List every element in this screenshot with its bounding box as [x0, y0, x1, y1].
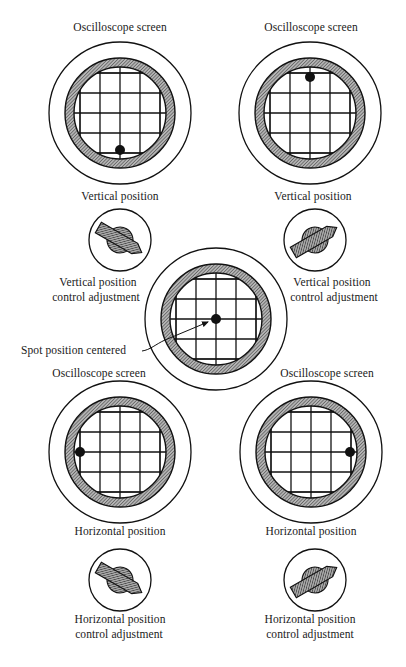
electron-beam-spot	[211, 314, 221, 324]
knob-vertical-right-label-line2: control adjustment	[290, 290, 378, 304]
knob-vertical-left-label-line1: Vertical position	[59, 275, 136, 289]
knob-horizontal-right	[284, 549, 346, 611]
top-right-screen-caption: Vertical position	[274, 189, 351, 203]
top-right-screen-title: Oscilloscope screen	[264, 20, 358, 34]
oscilloscope-screen-center	[145, 248, 287, 390]
oscilloscope-diagram: Oscilloscope screen Oscilloscope screen …	[0, 0, 406, 667]
electron-beam-spot	[75, 447, 85, 457]
knob-horizontal-left-label-line1: Horizontal position	[74, 612, 165, 626]
oscilloscope-screen-top-left	[49, 42, 191, 184]
bottom-left-screen-caption: Horizontal position	[74, 524, 165, 538]
bottom-right-screen-caption: Horizontal position	[265, 524, 356, 538]
diagram-canvas	[0, 0, 406, 667]
electron-beam-spot	[115, 145, 125, 155]
oscilloscope-screen-bottom-right	[240, 381, 382, 523]
knob-vertical-left	[89, 209, 151, 271]
knob-horizontal-right-label-line1: Horizontal position	[264, 612, 355, 626]
top-left-screen-caption: Vertical position	[81, 189, 158, 203]
knob-horizontal-left	[89, 549, 151, 611]
knob-horizontal-left-label-line2: control adjustment	[75, 627, 163, 641]
electron-beam-spot	[345, 447, 355, 457]
bottom-right-screen-title: Oscilloscope screen	[280, 366, 374, 380]
spot-centered-callout: Spot position centered	[21, 343, 126, 357]
top-left-screen-title: Oscilloscope screen	[73, 20, 167, 34]
knob-horizontal-right-label-line2: control adjustment	[266, 627, 354, 641]
knob-vertical-left-label-line2: control adjustment	[52, 290, 140, 304]
knob-vertical-right-label-line1: Vertical position	[293, 275, 370, 289]
oscilloscope-screen-bottom-left	[49, 381, 191, 523]
oscilloscope-screen-top-right	[239, 42, 381, 184]
knob-vertical-right	[284, 209, 346, 271]
electron-beam-spot	[305, 72, 315, 82]
bottom-left-screen-title: Oscilloscope screen	[52, 366, 146, 380]
